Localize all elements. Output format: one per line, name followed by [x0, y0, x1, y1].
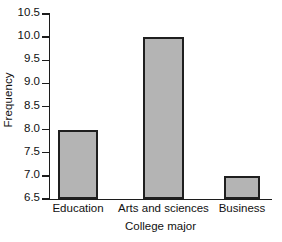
bar-arts-and-sciences [143, 37, 184, 199]
y-axis-tick [42, 198, 49, 199]
y-axis-tick-label: 7.0 [0, 168, 40, 180]
y-axis-tick-label: 10.0 [0, 29, 40, 41]
y-axis-tick [42, 36, 49, 37]
bar-education [58, 130, 98, 199]
y-axis-tick-label: 8.5 [0, 99, 40, 111]
category-label-business: Business [182, 202, 282, 214]
y-axis-tick [42, 175, 49, 176]
x-axis-category-labels: EducationArts and sciencesBusiness [49, 202, 272, 218]
y-axis-tick-label: 8.0 [0, 122, 40, 134]
y-axis-tick-label: 9.5 [0, 52, 40, 64]
y-axis-tick [42, 83, 49, 84]
bar-chart-figure: Frequency 10.510.09.59.08.58.07.57.06.5 … [0, 0, 282, 242]
x-axis-title: College major [49, 220, 272, 232]
bar-business [224, 176, 260, 199]
y-axis-tick [42, 13, 49, 14]
y-axis-tick [42, 60, 49, 61]
y-axis-tick-label: 7.5 [0, 145, 40, 157]
y-axis-tick-label: 9.0 [0, 75, 40, 87]
y-axis-tick [42, 152, 49, 153]
y-axis-tick [42, 129, 49, 130]
plot-area [49, 14, 272, 199]
y-axis-tick [42, 106, 49, 107]
y-axis-tick-label: 10.5 [0, 6, 40, 18]
